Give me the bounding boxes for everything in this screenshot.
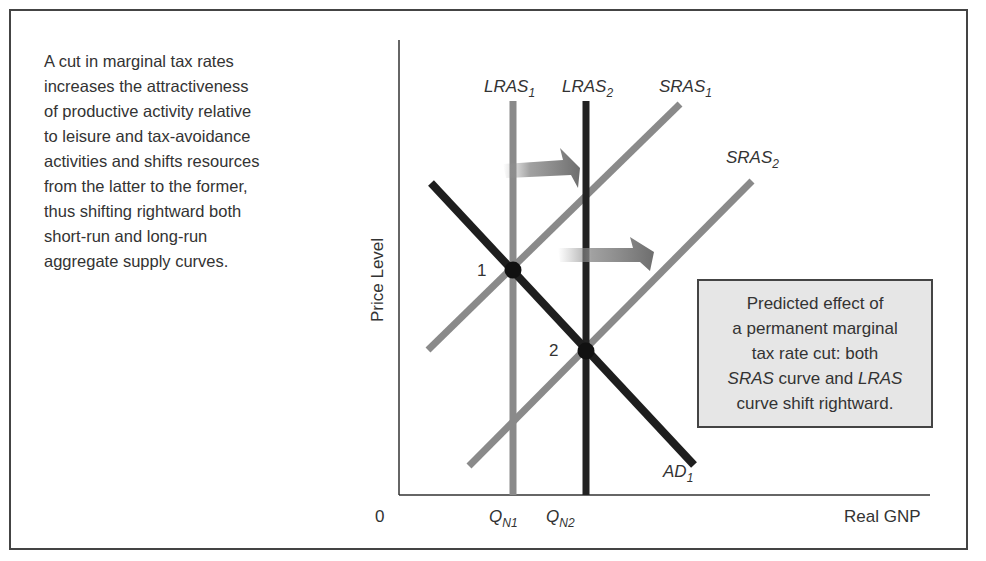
note-line: SRAS curve and LRAS xyxy=(699,366,931,391)
sras-shift-arrow-icon xyxy=(558,237,654,271)
x-axis-label: Real GNP xyxy=(844,507,921,526)
sras2-label: SRAS2 xyxy=(726,148,779,171)
point-1-label: 1 xyxy=(477,261,486,280)
lras2-label: LRAS2 xyxy=(562,77,613,100)
qn1-tick-label: QN1 xyxy=(489,507,518,530)
point-2-label: 2 xyxy=(549,341,558,360)
sras1-label: SRAS1 xyxy=(659,77,712,100)
equilibrium-point-1 xyxy=(505,262,522,279)
qn2-tick-label: QN2 xyxy=(546,507,575,530)
origin-label: 0 xyxy=(375,507,384,526)
note-line: Predicted effect of xyxy=(699,291,931,316)
ad1-label: AD1 xyxy=(662,462,693,485)
y-axis-label: Price Level xyxy=(368,238,387,322)
note-line: a permanent marginal xyxy=(699,316,931,341)
ad1-curve xyxy=(431,183,694,465)
equilibrium-point-2 xyxy=(578,343,595,360)
note-line: tax rate cut: both xyxy=(699,341,931,366)
note-line: curve shift rightward. xyxy=(699,391,931,416)
prediction-note-box: Predicted effect of a permanent marginal… xyxy=(697,279,933,428)
lras1-label: LRAS1 xyxy=(484,77,535,100)
